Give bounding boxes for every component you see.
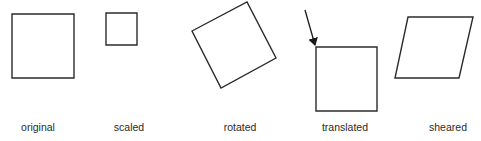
label-translated: translated <box>322 121 368 133</box>
rotated-square <box>192 2 276 88</box>
label-sheared: sheared <box>429 121 467 133</box>
label-original: original <box>21 121 55 133</box>
original-square <box>12 14 74 78</box>
translation-arrow-icon <box>305 10 315 45</box>
label-rotated: rotated <box>224 121 257 133</box>
label-scaled: scaled <box>114 121 144 133</box>
sheared-parallelogram <box>395 17 473 78</box>
scaled-square <box>106 13 137 45</box>
transformations-diagram <box>0 0 481 141</box>
translated-square <box>316 47 377 111</box>
